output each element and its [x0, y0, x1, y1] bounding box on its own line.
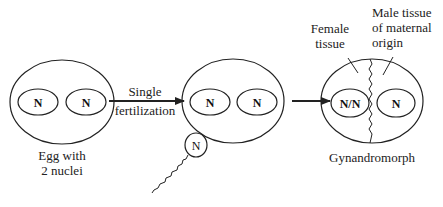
tissue-boundary [369, 59, 372, 143]
male-tissue-label-line-1: Male tissue [372, 5, 432, 20]
female-tissue-label-line-2: tissue [315, 36, 345, 51]
fertilized-nucleus-right-label: N [253, 96, 262, 110]
egg-with-two-nuclei: N N Egg with 2 nuclei [10, 60, 114, 178]
fertilized-nucleus-left-label: N [206, 96, 215, 110]
fertilization-arrow: Single fertilization [109, 84, 184, 118]
egg-caption-line-1: Egg with [38, 148, 86, 163]
male-nucleus-label: N [392, 97, 401, 111]
female-tissue-label-line-1: Female [311, 21, 349, 36]
sperm-nucleus-label: N [192, 139, 201, 153]
fertilized-egg-outline [182, 59, 284, 143]
gynandromorph: N/N N Female tissue Male tissue of mater… [311, 5, 432, 165]
egg-outline [10, 60, 114, 144]
gynandromorph-outline [321, 59, 423, 143]
arrow-label-below: fertilization [115, 103, 176, 118]
gynandromorph-caption: Gynandromorph [329, 150, 415, 165]
female-nucleus-label: N/N [340, 97, 361, 111]
fertilized-egg: N N [182, 59, 284, 143]
arrow-label-above: Single [128, 84, 161, 99]
sperm-tail [152, 155, 188, 193]
gynandromorph-diagram: N N Egg with 2 nuclei Single fertilizati… [0, 0, 443, 207]
male-tissue-label-line-3: origin [372, 35, 404, 50]
egg-caption-line-2: 2 nuclei [41, 163, 83, 178]
male-tissue-label-line-2: of maternal [372, 20, 432, 35]
sperm: N [152, 133, 207, 193]
egg-nucleus-right-label: N [82, 96, 91, 110]
egg-nucleus-left-label: N [34, 96, 43, 110]
